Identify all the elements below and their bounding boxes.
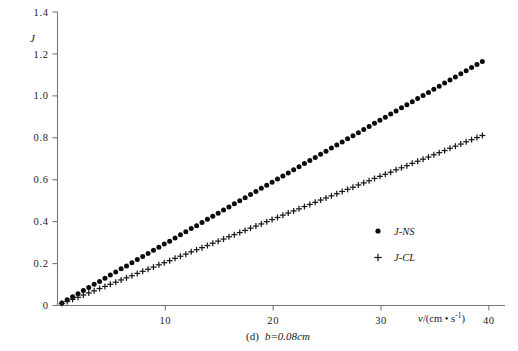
data-point-circle	[119, 266, 124, 271]
data-point-plus	[323, 195, 329, 201]
data-point-circle	[431, 87, 436, 92]
data-point-plus	[75, 294, 81, 300]
data-point-plus	[409, 160, 415, 166]
data-point-circle	[167, 239, 172, 244]
data-point-plus	[134, 270, 140, 276]
data-point-plus	[318, 197, 324, 203]
data-point-plus	[156, 262, 162, 268]
data-point-circle	[437, 84, 442, 89]
data-point-circle	[442, 81, 447, 86]
figure-caption: (d)b=0.08cm	[246, 330, 310, 343]
data-point-circle	[92, 282, 97, 287]
data-point-plus	[425, 154, 431, 160]
data-point-circle	[377, 118, 382, 123]
data-point-plus	[188, 249, 194, 255]
data-point-circle	[388, 112, 393, 117]
data-point-plus	[388, 169, 394, 175]
data-point-plus	[361, 180, 367, 186]
data-point-circle	[173, 235, 178, 240]
data-point-circle	[162, 242, 167, 247]
data-point-circle	[383, 115, 388, 120]
data-point-plus	[253, 223, 259, 229]
data-point-plus	[140, 268, 146, 274]
data-point-circle	[334, 143, 339, 148]
data-point-circle	[297, 164, 302, 169]
data-point-plus	[431, 152, 437, 158]
y-axis-title: J	[30, 32, 36, 44]
data-point-circle	[102, 276, 107, 281]
legend: J-NS J-CL	[374, 226, 415, 263]
data-point-plus	[258, 221, 264, 227]
data-point-circle	[286, 171, 291, 176]
data-point-plus	[420, 156, 426, 162]
data-point-circle	[189, 226, 194, 231]
data-point-plus	[345, 186, 351, 192]
series-j-cl	[59, 132, 486, 306]
caption-body: b=0.08cm	[265, 330, 310, 342]
data-point-circle	[345, 136, 350, 141]
data-point-circle	[291, 167, 296, 172]
x-tick-label: 30	[375, 315, 387, 326]
data-point-plus	[118, 277, 124, 283]
data-point-plus	[334, 191, 340, 197]
data-point-circle	[129, 260, 134, 265]
data-point-plus	[372, 175, 378, 181]
data-point-circle	[140, 254, 145, 259]
data-point-circle	[275, 177, 280, 182]
data-point-circle	[415, 96, 420, 101]
chart-svg: 00.20.40.60.81.01.21.4 10203040 J v/(cm …	[0, 0, 518, 351]
data-point-plus	[107, 281, 113, 287]
data-point-circle	[194, 223, 199, 228]
data-point-plus	[447, 145, 453, 151]
data-point-circle	[410, 99, 415, 104]
data-point-plus	[237, 230, 243, 236]
data-point-plus	[479, 132, 485, 138]
data-point-circle	[221, 208, 226, 213]
plot-axes	[58, 12, 506, 306]
data-point-plus	[291, 208, 297, 214]
data-point-circle	[259, 186, 264, 191]
data-point-plus	[172, 255, 178, 261]
data-point-circle	[237, 198, 242, 203]
data-point-plus	[296, 206, 302, 212]
data-point-plus	[80, 292, 86, 298]
data-point-plus	[97, 286, 103, 292]
data-point-plus	[377, 173, 383, 179]
data-point-plus	[312, 199, 318, 205]
data-point-circle	[253, 189, 258, 194]
legend-marker-plus	[374, 254, 381, 261]
data-point-circle	[97, 279, 102, 284]
data-point-circle	[270, 180, 275, 185]
x-tick-label: 10	[159, 315, 171, 326]
data-point-plus	[382, 171, 388, 177]
data-point-circle	[232, 201, 237, 206]
data-point-plus	[458, 141, 464, 147]
data-point-plus	[204, 243, 210, 249]
data-point-circle	[480, 59, 485, 64]
data-point-plus	[269, 217, 275, 223]
data-point-circle	[469, 65, 474, 70]
legend-marker-filled-circle	[375, 228, 380, 233]
data-point-circle	[248, 192, 253, 197]
y-tick-label: 0.4	[34, 216, 49, 227]
data-point-circle	[474, 62, 479, 67]
figure-caption-text: (d)b=0.08cm	[246, 330, 310, 343]
data-point-circle	[151, 248, 156, 253]
y-tick-label: 1.2	[34, 49, 49, 60]
data-point-circle	[448, 77, 453, 82]
data-point-plus	[398, 165, 404, 171]
data-point-circle	[399, 105, 404, 110]
data-point-circle	[361, 127, 366, 132]
data-point-plus	[328, 193, 334, 199]
data-point-circle	[205, 217, 210, 222]
data-point-plus	[463, 139, 469, 145]
data-point-circle	[367, 124, 372, 129]
x-axis-title-unit: /(cm • s	[423, 313, 455, 325]
data-point-plus	[280, 212, 286, 218]
data-point-plus	[231, 232, 237, 238]
y-tick-label: 0.6	[34, 174, 49, 185]
data-point-plus	[91, 288, 97, 294]
caption-prefix: (d)	[246, 330, 259, 343]
data-point-plus	[215, 238, 221, 244]
data-point-plus	[469, 137, 475, 143]
